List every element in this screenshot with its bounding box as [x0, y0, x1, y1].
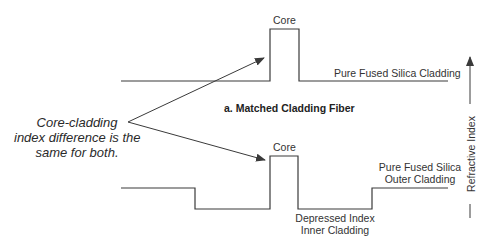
annotation-line-3: same for both.: [14, 145, 140, 160]
refractive-index-axis-label: Refractive Index: [465, 104, 477, 204]
outer-cladding-label: Pure Fused Silica Outer Cladding: [370, 161, 470, 185]
inner-cladding-line-1: Depressed Index: [290, 212, 380, 224]
diagram-title: a. Matched Cladding Fiber: [224, 102, 355, 114]
top-core-label: Core: [273, 14, 296, 26]
inner-cladding-label: Depressed Index Inner Cladding: [290, 212, 380, 236]
top-cladding-label: Pure Fused Silica Cladding: [334, 67, 461, 79]
outer-cladding-line-2: Outer Cladding: [370, 173, 470, 185]
inner-cladding-line-2: Inner Cladding: [290, 224, 380, 236]
annotation-text: Core-cladding index difference is the sa…: [14, 115, 140, 160]
outer-cladding-line-1: Pure Fused Silica: [370, 161, 470, 173]
annotation-arrow-bottom: [128, 122, 265, 160]
bottom-core-label: Core: [273, 141, 296, 153]
annotation-line-1: Core-cladding: [14, 115, 140, 130]
annotation-line-2: index difference is the: [14, 130, 140, 145]
